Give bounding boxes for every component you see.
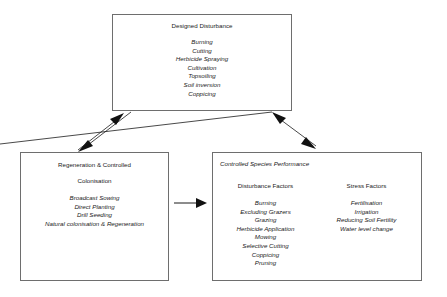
- list-item: Cutting: [113, 47, 291, 56]
- arrowhead-icon: [301, 137, 316, 149]
- arrowhead-icon: [78, 140, 93, 152]
- list-item: Herbicide Application: [215, 225, 316, 234]
- arrowhead-icon: [196, 198, 207, 208]
- list-item: Excluding Grazers: [215, 208, 316, 217]
- connector-controlled-species-to-designed-disturbance: [272, 112, 316, 146]
- list-item: Broadcast Sowing: [21, 194, 168, 203]
- controlled-species-columns: Disturbance Factors Burning Excluding Gr…: [213, 181, 421, 268]
- list-item: Fertilisation: [316, 199, 417, 208]
- box-regeneration-controlled-colonisation: Regeneration & Controlled Colonisation B…: [20, 152, 169, 281]
- list-item: Herbicide Spraying: [113, 55, 291, 64]
- box-regeneration-title-line2: Colonisation: [21, 176, 168, 185]
- box-designed-disturbance-title: Designed Disturbance: [113, 21, 291, 30]
- list-item: Direct Planting: [21, 203, 168, 212]
- box-regeneration-title-line1: Regeneration & Controlled: [21, 160, 168, 169]
- column-stress-factors: Stress Factors Fertilisation Irrigation …: [316, 181, 421, 268]
- list-item: Reducing Soil Fertility: [316, 216, 417, 225]
- list-item: Irrigation: [316, 208, 417, 217]
- connector-designed-disturbance-to-controlled-species: [0, 112, 316, 149]
- list-item: Mowing: [215, 233, 316, 242]
- list-item: Coppicing: [113, 90, 291, 99]
- box-controlled-species-performance: Controlled Species Performance Disturban…: [212, 152, 422, 281]
- stress-factors-item-list: Fertilisation Irrigation Reducing Soil F…: [316, 199, 417, 233]
- regeneration-item-list: Broadcast Sowing Direct Planting Drill S…: [21, 194, 168, 228]
- column-heading-disturbance-factors: Disturbance Factors: [215, 181, 316, 190]
- list-item: Burning: [113, 38, 291, 47]
- list-item: Soil inversion: [113, 81, 291, 90]
- column-disturbance-factors: Disturbance Factors Burning Excluding Gr…: [213, 181, 316, 268]
- connector-regeneration-to-controlled-species: [174, 198, 207, 208]
- list-item: Water level change: [316, 225, 417, 234]
- box-designed-disturbance: Designed Disturbance Burning Cutting Her…: [112, 14, 292, 111]
- list-item: Grazing: [215, 216, 316, 225]
- box-controlled-species-title: Controlled Species Performance: [220, 159, 421, 168]
- list-item: Cultivation: [113, 64, 291, 73]
- list-item: Coppicing: [215, 251, 316, 260]
- list-item: Topsoiling: [113, 72, 291, 81]
- connector-regeneration-to-designed-disturbance: [78, 113, 124, 150]
- list-item: Pruning: [215, 259, 316, 268]
- designed-disturbance-item-list: Burning Cutting Herbicide Spraying Culti…: [113, 38, 291, 98]
- disturbance-factors-item-list: Burning Excluding Grazers Grazing Herbic…: [215, 199, 316, 268]
- diagram-canvas: Designed Disturbance Burning Cutting Her…: [0, 0, 447, 297]
- list-item: Burning: [215, 199, 316, 208]
- connector-designed-disturbance-to-regeneration: [78, 112, 131, 152]
- column-heading-stress-factors: Stress Factors: [316, 181, 417, 190]
- arrowhead-icon: [272, 112, 286, 124]
- arrowhead-icon: [110, 113, 124, 125]
- list-item: Natural colonisation & Regeneration: [21, 220, 168, 229]
- list-item: Drill Seeding: [21, 211, 168, 220]
- list-item: Selective Cutting: [215, 242, 316, 251]
